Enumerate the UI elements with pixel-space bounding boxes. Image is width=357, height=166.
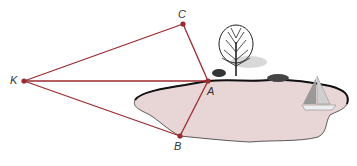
bush-icon — [212, 69, 226, 77]
geometry-diagram: K C A B — [0, 0, 357, 166]
tree-icon — [219, 25, 267, 76]
label-k: K — [10, 75, 17, 86]
segment-ca — [183, 24, 208, 81]
point-b — [177, 133, 182, 138]
label-a: A — [207, 86, 214, 97]
label-c: C — [178, 9, 186, 20]
point-k — [21, 78, 26, 83]
label-b: B — [174, 141, 181, 152]
segment-kc — [24, 24, 183, 81]
bush-icon — [267, 74, 289, 82]
point-c — [180, 21, 185, 26]
point-a — [205, 78, 210, 83]
